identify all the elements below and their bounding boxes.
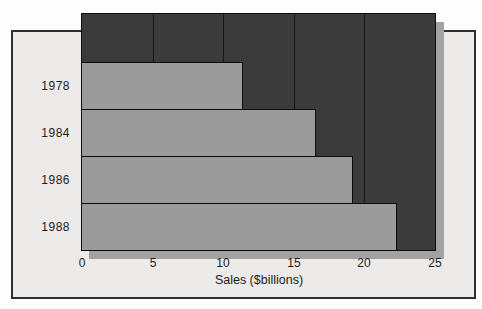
y-tick-label-1978: 1978 <box>14 62 70 109</box>
x-tick-label-20: 20 <box>344 256 384 270</box>
bar-1988 <box>82 203 397 251</box>
bar-1984 <box>82 109 316 157</box>
y-tick-label-1988: 1988 <box>14 203 70 250</box>
figure: 1978198419861988 0510152025 Sales ($bill… <box>0 0 482 309</box>
x-tick-label-15: 15 <box>274 256 314 270</box>
x-tick-label-25: 25 <box>415 256 455 270</box>
x-tick-label-10: 10 <box>203 256 243 270</box>
bar-1978 <box>82 62 243 110</box>
y-tick-label-1986: 1986 <box>14 156 70 203</box>
x-axis-title: Sales ($billions) <box>159 273 359 287</box>
x-tick-label-0: 0 <box>62 256 102 270</box>
plot-area <box>81 13 436 251</box>
bar-1986 <box>82 156 353 204</box>
x-tick-label-5: 5 <box>133 256 173 270</box>
y-tick-label-1984: 1984 <box>14 109 70 156</box>
